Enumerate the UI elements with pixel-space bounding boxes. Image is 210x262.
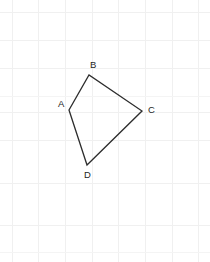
geometry-figure-canvas: A B C D: [0, 0, 210, 262]
quadrilateral-abcd-path: [69, 75, 142, 165]
vertex-label-a: A: [58, 99, 64, 109]
figure-svg: [0, 0, 210, 262]
vertex-label-c: C: [148, 105, 155, 115]
grid-layer: [0, 0, 210, 262]
vertex-label-b: B: [90, 60, 96, 70]
polygon-layer: [69, 75, 142, 165]
vertex-label-d: D: [84, 170, 91, 180]
